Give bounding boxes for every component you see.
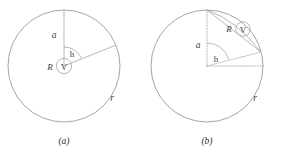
panel-a-label-R: R bbox=[46, 62, 53, 72]
panel-a-label-V: V bbox=[61, 62, 68, 72]
figure-svg: a h R V r (a) bbox=[0, 0, 282, 151]
panel-a-caption: (a) bbox=[58, 136, 69, 147]
panel-a-label-a: a bbox=[52, 30, 57, 40]
panel-b-label-r: r bbox=[253, 93, 257, 103]
panel-b-label-R: R bbox=[225, 24, 232, 34]
panel-a-label-r: r bbox=[110, 93, 114, 103]
panel-b-chord bbox=[207, 10, 261, 52]
panel-b: a h R V r (b) bbox=[151, 10, 263, 147]
panel-b-caption: (b) bbox=[201, 136, 212, 147]
panel-b-label-V: V bbox=[240, 25, 247, 35]
figure-root: a h R V r (a) bbox=[0, 0, 282, 151]
panel-a-label-h: h bbox=[70, 49, 75, 59]
panel-a: a h R V r (a) bbox=[8, 10, 120, 147]
panel-b-label-a: a bbox=[196, 40, 201, 50]
panel-b-label-h: h bbox=[214, 54, 219, 64]
